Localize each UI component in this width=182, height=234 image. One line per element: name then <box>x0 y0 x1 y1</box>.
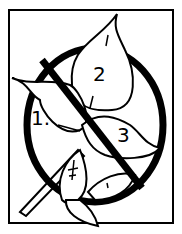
leaf-1-label: 1. <box>31 106 50 130</box>
leaf-3-label: 3 <box>117 123 130 147</box>
leaf-2-label: 2 <box>93 62 106 86</box>
illustration: 1. 2 3 <box>0 0 182 234</box>
